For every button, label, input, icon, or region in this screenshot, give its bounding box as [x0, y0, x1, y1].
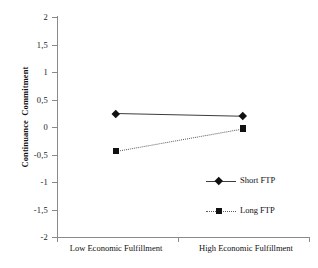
data-point-marker [239, 112, 247, 120]
y-tick-label: 0 [8, 123, 48, 132]
chart-legend: Short FTP Long FTP [206, 172, 310, 232]
legend-label-short-ftp: Short FTP [240, 175, 275, 186]
y-tick-label: -0,5 [8, 151, 48, 160]
y-tick-label: 1,5 [8, 41, 48, 50]
y-tick-label: -1 [8, 178, 48, 187]
x-axis-label-high: High Economic Fulfillment [176, 243, 316, 253]
y-tick-label: 2 [8, 13, 48, 22]
data-point-marker [113, 148, 120, 155]
y-tick [52, 17, 57, 18]
y-tick [52, 127, 57, 128]
line-chart: Continuance Commitment 21,510,50-0,5-1-1… [0, 0, 318, 268]
data-point-marker [112, 109, 120, 117]
x-tick-middle [178, 237, 179, 242]
y-axis-line [57, 16, 58, 238]
y-tick-label: 1 [8, 68, 48, 77]
legend-item-long-ftp: Long FTP [206, 202, 310, 232]
y-tick [52, 45, 57, 46]
legend-item-short-ftp: Short FTP [206, 172, 310, 202]
legend-marker-diamond [219, 181, 222, 184]
x-axis-line [57, 237, 310, 238]
x-axis-label-low: Low Economic Fulfillment [46, 243, 186, 253]
x-tick-start [57, 237, 58, 242]
series-line-short-ftp [116, 113, 243, 117]
series-line-long-ftp [116, 129, 243, 153]
y-tick [52, 155, 57, 156]
y-tick-label: -2 [8, 233, 48, 242]
y-tick [52, 72, 57, 73]
x-tick-end [309, 237, 310, 242]
data-point-marker [240, 125, 247, 132]
y-tick [52, 210, 57, 211]
legend-label-long-ftp: Long FTP [240, 205, 275, 216]
legend-marker-square [219, 211, 222, 214]
y-tick-label: 0,5 [8, 96, 48, 105]
y-tick-label: -1,5 [8, 206, 48, 215]
y-tick [52, 100, 57, 101]
y-tick [52, 182, 57, 183]
